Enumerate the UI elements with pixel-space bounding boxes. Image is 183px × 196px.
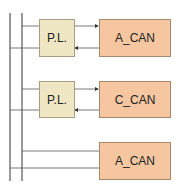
c-can-box: C_CAN [99,81,171,118]
can-label-1: A_CAN [115,31,155,45]
can-label-3: A_CAN [115,154,155,168]
a-can-box-2: A_CAN [99,142,171,180]
pl-label-1: P.L. [47,31,67,45]
pl-label-2: P.L. [47,93,67,107]
pl-box-2: P.L. [39,81,75,118]
can-label-2: C_CAN [115,93,156,107]
a-can-box-1: A_CAN [99,19,171,57]
pl-box-1: P.L. [39,19,75,57]
